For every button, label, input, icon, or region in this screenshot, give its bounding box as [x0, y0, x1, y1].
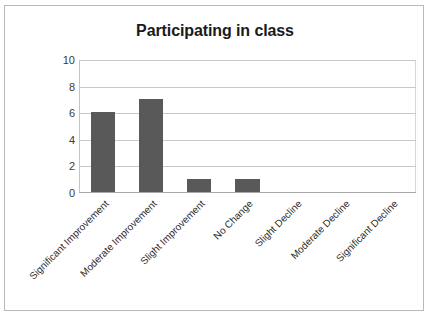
bar: [235, 179, 259, 192]
y-tick-label: 0: [37, 188, 75, 199]
y-tick-label: 6: [37, 108, 75, 119]
x-axis-category-labels: Significant ImprovementModerate Improvem…: [79, 194, 416, 304]
gridline: [79, 87, 416, 88]
gridline: [79, 166, 416, 167]
x-axis-line: [79, 192, 416, 193]
y-tick-label: 2: [37, 161, 75, 172]
bar: [187, 179, 211, 192]
gridline: [79, 60, 416, 61]
x-label-slot: Slight Improvement: [175, 194, 223, 304]
y-tick-label: 8: [37, 81, 75, 92]
bar: [91, 112, 115, 192]
y-tick-label: 4: [37, 134, 75, 145]
x-label-slot: Significant Decline: [368, 194, 416, 304]
y-axis-tick-labels: 0246810: [33, 60, 75, 193]
chart-title: Participating in class: [5, 22, 425, 40]
y-tick-label: 10: [37, 55, 75, 66]
chart-frame: Participating in class 0246810 Significa…: [4, 5, 424, 311]
gridline: [79, 140, 416, 141]
x-tick-label: Significant Improvement: [27, 198, 111, 282]
x-label-slot: No Change: [223, 194, 271, 304]
plot-area: [79, 60, 416, 193]
plot-border: [79, 60, 416, 193]
bar: [139, 99, 163, 192]
gridline: [79, 113, 416, 114]
